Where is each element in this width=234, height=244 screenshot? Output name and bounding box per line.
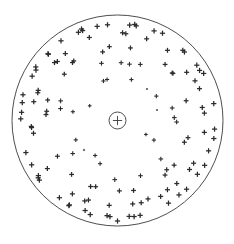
plus-marker	[174, 181, 179, 186]
plus-marker	[104, 213, 109, 218]
plus-marker	[154, 94, 158, 98]
plus-marker	[107, 44, 112, 49]
plus-marker	[131, 188, 136, 193]
plus-marker	[187, 167, 192, 172]
plus-marker	[127, 214, 132, 219]
plus-marker	[98, 162, 102, 166]
plus-marker	[88, 104, 92, 108]
plus-marker	[146, 196, 151, 201]
plus-marker	[176, 192, 181, 197]
plus-marker	[160, 31, 165, 36]
polar-scatter-figure	[0, 0, 234, 244]
plus-marker	[158, 194, 163, 199]
plus-marker	[29, 162, 34, 167]
plus-marker	[44, 109, 49, 114]
center-marker-layer	[109, 112, 126, 129]
plus-marker	[184, 70, 189, 75]
plus-marker	[62, 72, 67, 77]
plus-marker	[82, 198, 87, 203]
plus-marker	[130, 201, 135, 206]
plus-marker	[19, 110, 24, 115]
plus-marker	[119, 60, 124, 65]
outlier-faint-right-of-center	[146, 88, 148, 90]
plus-marker	[197, 68, 202, 73]
plus-marker	[191, 161, 196, 166]
plus-marker	[30, 74, 35, 79]
plus-marker	[174, 120, 179, 125]
plus-marker	[184, 98, 189, 103]
plus-marker	[194, 63, 199, 68]
plus-marker	[71, 110, 75, 114]
plus-marker	[184, 187, 189, 192]
plus-marker	[163, 62, 168, 67]
plus-marker	[212, 127, 217, 132]
plus-marker	[182, 140, 187, 145]
plot-canvas	[0, 0, 234, 244]
plus-marker	[20, 92, 25, 97]
plus-marker	[95, 24, 100, 29]
plus-marker	[107, 203, 112, 208]
outlier-faint-mid-right	[156, 109, 158, 111]
outlier-faint-left	[83, 149, 85, 151]
plus-marker	[87, 35, 92, 40]
plus-marker	[144, 36, 149, 41]
plus-marker	[159, 157, 164, 162]
plus-marker	[69, 172, 74, 177]
plus-marker	[105, 22, 110, 27]
plus-marker	[107, 214, 112, 219]
plus-marker	[55, 154, 60, 159]
plus-marker	[172, 163, 177, 168]
plus-marker	[201, 71, 206, 76]
center-circled-plus	[109, 112, 126, 129]
plus-marker	[138, 62, 143, 67]
plus-marker	[172, 115, 177, 120]
plus-marker	[44, 112, 49, 117]
plus-marker	[123, 31, 128, 36]
plus-marker	[99, 61, 104, 66]
plus-marker	[55, 59, 60, 64]
plus-marker	[127, 22, 132, 27]
plus-marker	[74, 138, 78, 142]
plus-marker	[138, 213, 143, 218]
plus-marker	[105, 77, 109, 81]
plus-marker	[202, 111, 207, 116]
plus-marker	[165, 187, 170, 192]
plus-marker	[129, 77, 133, 81]
plus-marker	[33, 64, 38, 69]
plus-marker	[36, 88, 41, 93]
plus-marker	[112, 177, 117, 182]
plus-marker	[93, 184, 98, 189]
plus-marker	[31, 99, 36, 104]
plus-marker	[211, 101, 216, 106]
plus-marker	[70, 191, 75, 196]
plus-marker	[139, 200, 144, 205]
plus-marker	[195, 172, 200, 177]
plus-marker	[86, 198, 91, 203]
plus-marker	[101, 79, 105, 83]
plus-marker	[127, 62, 132, 67]
plus-marker	[58, 38, 63, 43]
plus-marker	[20, 100, 25, 105]
plus-marker	[117, 188, 122, 193]
plus-marker	[66, 203, 71, 208]
plus-marker	[163, 173, 168, 178]
plus-marker	[58, 99, 63, 104]
plus-marker	[45, 166, 50, 171]
plus-marker	[45, 98, 50, 103]
plus-marker	[23, 150, 28, 155]
plus-marker	[88, 184, 93, 189]
plus-marker	[46, 52, 51, 57]
plus-marker	[132, 214, 137, 219]
plus-marker	[128, 46, 133, 51]
plus-marker	[100, 50, 105, 55]
plus-marker	[197, 86, 202, 91]
plus-marker	[186, 135, 191, 140]
plus-marker	[31, 131, 36, 136]
plus-marker	[70, 151, 75, 156]
plus-marker	[164, 167, 169, 172]
plus-marker	[165, 48, 170, 53]
plus-marker	[93, 153, 97, 157]
plus-marker	[120, 30, 125, 35]
plus-marker	[202, 130, 207, 135]
plus-marker	[170, 106, 175, 111]
